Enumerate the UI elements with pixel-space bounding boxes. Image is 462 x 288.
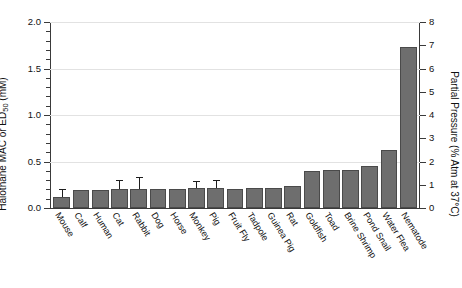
right-tick-major [420, 69, 426, 70]
left-tick-major [44, 208, 50, 209]
error-bar [216, 181, 217, 188]
bar [150, 189, 167, 208]
error-bar [139, 178, 140, 189]
error-bar [62, 190, 63, 197]
bar [130, 189, 147, 208]
right-tick-major [420, 162, 426, 163]
right-tick-label: 6 [429, 64, 434, 74]
y-axis-right-title: Partial Pressure (% Atm at 37°C) [449, 71, 460, 217]
bar [342, 170, 359, 208]
error-bar-cap [136, 177, 143, 178]
left-tick-label: 1.0 [28, 110, 41, 120]
right-tick-label: 4 [429, 110, 434, 120]
left-tick-label: 2.0 [28, 17, 41, 27]
error-bar-cap [59, 189, 66, 190]
bar [400, 47, 417, 208]
left-tick-label: 0.0 [28, 203, 41, 213]
x-axis-label: Toad [323, 211, 341, 232]
right-tick-major [420, 45, 426, 46]
right-tick-label: 2 [429, 157, 434, 167]
bar [92, 190, 109, 208]
chart-root: Halothane MAC or ED50 (mM) Partial Press… [0, 0, 462, 288]
y-axis-left-title-sub: 50 [1, 103, 10, 111]
right-tick-major [420, 185, 426, 186]
right-tick-major [420, 115, 426, 116]
x-axis-label: Horse [169, 211, 189, 236]
right-tick-label: 3 [429, 134, 434, 144]
bar [188, 188, 205, 208]
bar [227, 189, 244, 208]
y-axis-left-title-main: Halothane MAC or ED [0, 112, 8, 211]
bar [304, 171, 321, 208]
bar [111, 189, 128, 208]
right-tick-major [420, 22, 426, 23]
bar [73, 190, 90, 208]
right-tick-label: 1 [429, 180, 434, 190]
right-tick-label: 8 [429, 17, 434, 27]
x-axis-labels: MouseCalfHumanCatRabbitDogHorseMonkeyPig… [50, 211, 420, 288]
right-tick-label: 5 [429, 87, 434, 97]
x-axis-label: Dog [149, 211, 165, 230]
bar [246, 188, 263, 208]
bottom-axis-line [50, 208, 420, 209]
right-tick-major [420, 92, 426, 93]
x-axis-label: Calf [72, 211, 88, 229]
right-tick-label: 7 [429, 41, 434, 51]
left-tick-label: 1.5 [28, 64, 41, 74]
error-bar [196, 182, 197, 189]
y-axis-left-title: Halothane MAC or ED50 (mM) [0, 77, 8, 210]
right-tick-major [420, 138, 426, 139]
bar [265, 188, 282, 208]
bar [361, 166, 378, 208]
error-bar-cap [213, 180, 220, 181]
bar [207, 188, 224, 208]
right-tick-label: 0 [429, 203, 434, 213]
bar [53, 197, 70, 208]
error-bar-cap [116, 180, 123, 181]
x-axis-label: Pig [207, 211, 222, 227]
x-axis-label: Rat [284, 211, 299, 228]
y-axis-left-title-unit: (mM) [0, 77, 8, 103]
error-bar-cap [193, 181, 200, 182]
x-axis-label: Cat [111, 211, 126, 228]
left-tick-label: 0.5 [28, 157, 41, 167]
bar [323, 170, 340, 208]
right-tick-major [420, 208, 426, 209]
error-bar [119, 181, 120, 189]
bar [169, 189, 186, 208]
bar [381, 150, 398, 208]
plot-area: 0.00.51.01.52.0 012345678 [50, 22, 420, 209]
bar [284, 186, 301, 208]
bar-series [50, 22, 420, 208]
